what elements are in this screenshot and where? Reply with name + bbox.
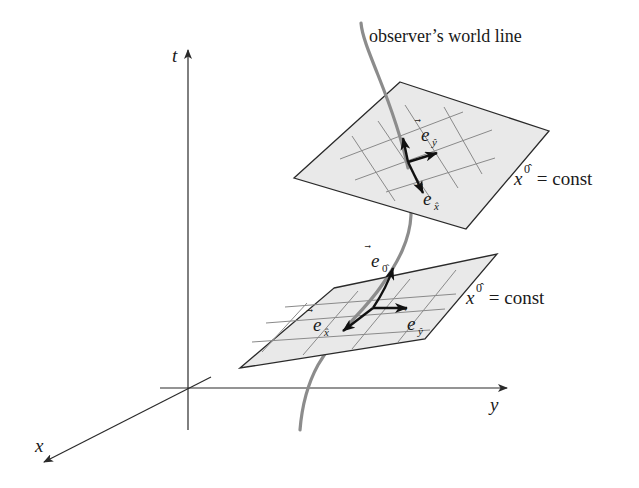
- svg-text:0̂: 0̂: [524, 162, 532, 176]
- x-axis: [44, 377, 211, 462]
- lower-plane-label: x 0̂ = const: [465, 281, 545, 308]
- svg-text:x: x: [513, 168, 523, 189]
- t-axis-label: t: [172, 45, 178, 66]
- svg-text:x: x: [465, 287, 475, 308]
- svg-text:⃗: ⃗: [364, 245, 371, 248]
- svg-text:e: e: [371, 250, 379, 271]
- world-line-label: observer’s world line: [369, 26, 522, 46]
- svg-text:e: e: [407, 313, 415, 334]
- svg-text:e: e: [313, 314, 321, 335]
- svg-text:ŷ: ŷ: [417, 325, 423, 337]
- svg-text:e: e: [423, 188, 431, 209]
- svg-text:= const: = const: [532, 168, 593, 189]
- upper-plane-label: x 0̂ = const: [513, 162, 593, 189]
- spacetime-diagram: t y x observer’s world line e ⃗ ŷ e ⃗ x̂…: [0, 0, 639, 488]
- svg-text:x̂: x̂: [323, 326, 329, 338]
- svg-text:= const: = const: [484, 287, 545, 308]
- svg-text:0̂: 0̂: [382, 262, 390, 274]
- label-e-0-lower: e ⃗ 0̂: [364, 245, 390, 274]
- upper-plane: [294, 82, 549, 229]
- svg-text:ŷ: ŷ: [431, 136, 437, 148]
- svg-text:e: e: [421, 124, 429, 145]
- x-axis-label: x: [34, 435, 44, 456]
- svg-text:x̂: x̂: [433, 200, 439, 212]
- svg-text:0̂: 0̂: [476, 281, 484, 295]
- y-axis-label: y: [488, 394, 499, 415]
